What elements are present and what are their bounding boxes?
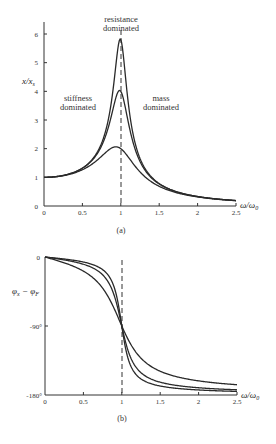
x-ticks-b: 00.511.522.5 <box>43 392 242 406</box>
y-tick-label-b-180: -180° <box>26 392 42 400</box>
phase-curve <box>45 257 237 385</box>
amplitude-curve <box>44 39 236 200</box>
x-tick-label-a: 0 <box>42 209 46 217</box>
figure: 0123456 00.511.522.5 x/xs ω/ω0 resistanc… <box>0 0 276 444</box>
chart-a: 0123456 00.511.522.5 x/xs ω/ω0 resistanc… <box>21 14 258 235</box>
phase-curves <box>45 257 237 391</box>
x-tick-label-b: 1 <box>120 398 124 406</box>
amplitude-curves <box>44 39 236 201</box>
y-axis-label-a: x/xs <box>21 76 36 87</box>
x-axis-label-b: ω/ω0 <box>241 390 259 401</box>
x-axis-label-a: ω/ω0 <box>240 200 258 211</box>
y-tick-label-a: 2 <box>35 145 39 153</box>
x-tick-label-a: 1.5 <box>155 209 164 217</box>
y-tick-label-a: 1 <box>35 174 39 182</box>
annotation-stiffness: stiffnessdominated <box>60 93 97 112</box>
x-tick-label-a: 0.5 <box>78 209 87 217</box>
y-tick-label-b-0: 0 <box>37 254 41 262</box>
y-ticks-a: 0123456 <box>35 31 48 211</box>
y-tick-label-b-90: -90° <box>30 323 42 331</box>
x-ticks-a: 00.511.522.5 <box>42 203 241 217</box>
x-tick-label-b: 1.5 <box>156 398 165 406</box>
y-tick-label-a: 5 <box>35 59 39 67</box>
x-tick-label-a: 2.5 <box>232 209 241 217</box>
phase-curve <box>45 257 237 390</box>
x-tick-label-b: 0 <box>43 398 47 406</box>
y-tick-label-a: 4 <box>35 88 39 96</box>
y-tick-label-a: 3 <box>35 117 39 125</box>
y-tick-label-a: 6 <box>35 31 39 39</box>
x-tick-label-b: 2 <box>197 398 201 406</box>
y-axis-label-b: φx − φF <box>12 286 39 297</box>
x-tick-label-a: 2 <box>196 209 200 217</box>
phase-curve <box>45 257 237 391</box>
y-tick-label-a: 0 <box>35 203 39 211</box>
x-tick-label-b: 0.5 <box>79 398 88 406</box>
x-tick-label-a: 1 <box>119 209 123 217</box>
amplitude-curve <box>44 147 236 201</box>
caption-a: (a) <box>117 226 126 235</box>
annotation-resistance: resistancedominated <box>103 14 140 33</box>
annotation-mass: massdominated <box>143 93 180 112</box>
caption-b: (b) <box>117 414 127 423</box>
chart-b: 00.511.522.5 0 -90° -180° φx − φF ω/ω0 (… <box>12 254 259 423</box>
